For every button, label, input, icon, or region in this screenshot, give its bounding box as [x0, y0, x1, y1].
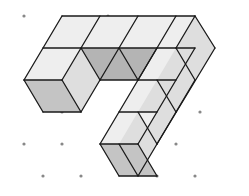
grid-dot	[22, 14, 25, 17]
grid-dot	[41, 174, 44, 177]
grid-dot	[193, 174, 196, 177]
isometric-cube-diagram	[0, 0, 249, 196]
grid-dot	[60, 142, 63, 145]
grid-dot	[198, 110, 201, 113]
grid-dot	[174, 142, 177, 145]
grid-dot	[79, 174, 82, 177]
cube-structure-figure	[0, 0, 249, 196]
grid-dot	[22, 142, 25, 145]
